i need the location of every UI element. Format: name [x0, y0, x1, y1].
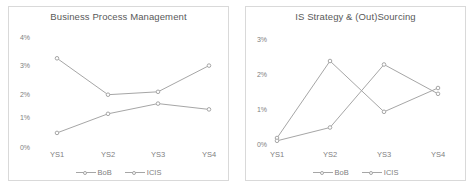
legend-marker-icon	[76, 169, 96, 176]
data-point-icis-ys2	[328, 59, 332, 63]
data-point-bob-ys1	[275, 139, 279, 143]
chart-panel-is-strategy-outsourcing: IS Strategy & (Out)Sourcing 3% 2% 1% 0% …	[237, 0, 474, 189]
data-point-icis-ys1	[55, 57, 59, 61]
data-point-icis-ys4	[436, 86, 440, 90]
data-point-bob-ys2	[328, 126, 332, 130]
chart-figure: Business Process Management 4% 3% 2% 1% …	[0, 0, 474, 189]
chart-panel-business-process-management: Business Process Management 4% 3% 2% 1% …	[0, 0, 237, 189]
data-point-bob-ys3	[156, 102, 160, 106]
series-line-bob	[57, 104, 209, 133]
legend-label-bob: BoB	[98, 168, 112, 177]
data-point-icis-ys4	[207, 64, 211, 68]
series-line-icis	[57, 58, 209, 94]
legend-marker-icon	[362, 169, 382, 176]
legend-item-bob[interactable]: BoB	[313, 168, 349, 177]
legend-marker-icon	[313, 169, 333, 176]
data-point-bob-ys4	[436, 92, 440, 96]
legend-label-icis: ICIS	[147, 168, 162, 177]
legend-marker-icon	[125, 169, 145, 176]
data-point-icis-ys2	[106, 93, 110, 97]
data-point-bob-ys1	[55, 131, 59, 135]
legend-label-icis: ICIS	[384, 168, 399, 177]
data-point-bob-ys4	[207, 108, 211, 112]
data-point-bob-ys2	[106, 112, 110, 116]
data-point-icis-ys3	[156, 90, 160, 94]
legend-item-icis[interactable]: ICIS	[362, 168, 399, 177]
plot-area	[0, 0, 237, 189]
data-point-bob-ys3	[382, 63, 386, 67]
data-point-icis-ys3	[382, 110, 386, 114]
legend-item-icis[interactable]: ICIS	[125, 168, 162, 177]
legend-item-bob[interactable]: BoB	[76, 168, 112, 177]
legend-label-bob: BoB	[335, 168, 349, 177]
plot-area	[237, 0, 474, 189]
chart-legend: BoB ICIS	[237, 168, 474, 177]
chart-legend: BoB ICIS	[0, 168, 237, 177]
series-line-icis	[277, 61, 438, 138]
